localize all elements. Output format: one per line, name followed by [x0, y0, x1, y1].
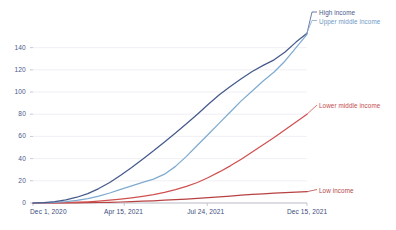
y-tick-label: 120: [4, 66, 26, 73]
legend-leader-line: [306, 21, 317, 36]
y-tick-label: 0: [4, 199, 26, 206]
series-label-high-income: High income: [319, 9, 355, 16]
series-line-upper-middle-income: [33, 34, 307, 203]
x-tick-label: Dec 15, 2021: [287, 208, 327, 215]
legend-leader-line: [307, 105, 317, 114]
legend-leader-lines-group: [306, 12, 317, 192]
y-tick-label: 20: [4, 177, 26, 184]
chart-container: 020406080100120140 Dec 1, 2020Apr 15, 20…: [0, 0, 396, 230]
y-tick-label: 60: [4, 132, 26, 139]
series-line-high-income: [33, 33, 307, 203]
legend-leader-line: [307, 190, 317, 192]
y-tick-label: 80: [4, 110, 26, 117]
line-chart-plot: [0, 0, 396, 230]
y-tick-label: 100: [4, 88, 26, 95]
series-label-low-income: Low income: [319, 187, 354, 194]
series-label-upper-middle-income: Upper middle income: [319, 18, 380, 25]
x-tick-label: Apr 15, 2021: [104, 208, 143, 215]
series-lines-group: [33, 33, 307, 203]
y-tick-label: 140: [4, 44, 26, 51]
series-label-lower-middle-income: Lower middle income: [319, 102, 380, 109]
y-tick-label: 40: [4, 155, 26, 162]
x-tick-label: Dec 1, 2020: [30, 208, 67, 215]
gridlines-group: [30, 48, 307, 203]
x-tick-label: Jul 24, 2021: [187, 208, 224, 215]
